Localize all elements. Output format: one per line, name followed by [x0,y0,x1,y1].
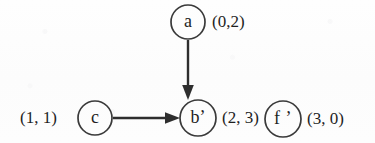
node-b-prime[interactable]: b’ [180,100,216,136]
node-c-label: c [91,107,99,127]
node-a-label: a [184,11,192,31]
node-a-coord-label: (0,2) [212,12,245,31]
node-c-coord-label: (1, 1) [20,108,57,127]
edge-a-to-b-prime-arrowhead [182,85,194,100]
node-b-prime-label: b’ [191,107,206,127]
node-b-prime-coord-label: (2, 3) [222,108,259,127]
node-a[interactable]: a [171,5,205,39]
edge-a-to-b-prime [182,40,194,100]
node-c[interactable]: c [78,101,112,135]
edge-c-to-b-prime [113,112,180,124]
edge-c-to-b-prime-arrowhead [165,112,180,124]
graph-svg: a (0,2) c (1, 1) b’ (2, 3) f ’ (3, 0) [0,0,375,143]
node-f-prime[interactable]: f ’ [265,101,301,137]
node-f-prime-label: f ’ [274,108,292,128]
node-f-prime-coord-label: (3, 0) [307,109,344,128]
diagram-canvas: a (0,2) c (1, 1) b’ (2, 3) f ’ (3, 0) [0,0,375,143]
